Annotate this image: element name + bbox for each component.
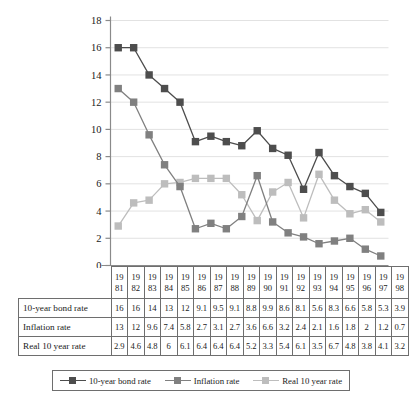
data-point-marker [176, 183, 183, 190]
table-cell: 6.4 [210, 337, 227, 356]
data-point-marker [130, 199, 137, 206]
legend-marker-icon [60, 376, 86, 385]
table-year-header: 1994 [326, 267, 343, 299]
data-point-marker [223, 138, 230, 145]
table-cell: 6.7 [326, 337, 343, 356]
table-row: 10-year bond rate16161413129.19.59.18.89… [19, 299, 409, 318]
year-century: 19 [194, 272, 210, 283]
table-cell: 13 [111, 318, 128, 337]
table-year-header: 1988 [227, 267, 244, 299]
table-cell: 0.7 [392, 318, 409, 337]
year-suffix: 90 [260, 283, 276, 294]
data-point-marker [238, 191, 245, 198]
table-cell: 6 [161, 337, 178, 356]
data-point-marker [377, 218, 384, 225]
table-year-header: 1998 [392, 267, 409, 299]
year-suffix: 98 [392, 283, 408, 294]
year-suffix: 86 [194, 283, 210, 294]
data-point-marker [207, 220, 214, 227]
data-point-marker [315, 171, 322, 178]
year-century: 19 [392, 272, 408, 283]
year-suffix: 82 [128, 283, 144, 294]
data-point-marker [315, 149, 322, 156]
year-suffix: 89 [244, 283, 260, 294]
year-century: 19 [359, 272, 375, 283]
table-cell: 2.7 [227, 318, 244, 337]
y-tick-label-4: 4 [96, 206, 102, 217]
table-cell: 14 [144, 299, 161, 318]
table-cell: 5.3 [375, 299, 392, 318]
data-point-marker [284, 229, 291, 236]
table-cell: 13 [161, 299, 178, 318]
data-point-marker [331, 172, 338, 179]
year-century: 19 [161, 272, 177, 283]
data-point-marker [161, 85, 168, 92]
data-point-marker [346, 183, 353, 190]
series-real-10-year-rate [115, 171, 385, 230]
table-year-header: 1987 [210, 267, 227, 299]
year-suffix: 85 [178, 283, 194, 294]
data-point-marker [346, 235, 353, 242]
series-10-year-bond-rate [115, 44, 385, 216]
year-suffix: 88 [227, 283, 243, 294]
table-year-header: 1989 [243, 267, 260, 299]
table-cell: 1.6 [326, 318, 343, 337]
table-cell: 9.9 [260, 299, 277, 318]
table-cell: 4.8 [342, 337, 359, 356]
legend-item[interactable]: Inflation rate [165, 376, 240, 386]
table-cell: 5.8 [177, 318, 194, 337]
data-point-marker [300, 214, 307, 221]
year-suffix: 83 [145, 283, 161, 294]
table-cell: 5.4 [276, 337, 293, 356]
year-suffix: 97 [376, 283, 392, 294]
chart-plot-area: 181614121086420 [0, 0, 399, 268]
table-cell: 5.6 [309, 299, 326, 318]
data-point-marker [207, 175, 214, 182]
data-point-marker [362, 190, 369, 197]
data-point-marker [346, 210, 353, 217]
table-cell: 3.8 [359, 337, 376, 356]
legend-item[interactable]: 10-year bond rate [60, 376, 151, 386]
data-point-marker [300, 233, 307, 240]
table-row-label: 10-year bond rate [19, 299, 112, 318]
series-line [118, 174, 381, 226]
table-cell: 2 [359, 318, 376, 337]
table-year-header: 1984 [161, 267, 178, 299]
year-century: 19 [277, 272, 293, 283]
data-point-marker [362, 206, 369, 213]
table-cell: 16 [128, 299, 145, 318]
data-point-marker [115, 222, 122, 229]
year-century: 19 [145, 272, 161, 283]
table-cell: 8.6 [276, 299, 293, 318]
year-century: 19 [178, 272, 194, 283]
year-century: 19 [112, 272, 128, 283]
table-cell: 4.6 [128, 337, 145, 356]
data-point-marker [300, 186, 307, 193]
data-point-marker [284, 152, 291, 159]
table-row: Real 10 year rate2.94.64.866.16.46.46.45… [19, 337, 409, 356]
series-line [118, 89, 381, 256]
year-century: 19 [260, 272, 276, 283]
table-cell: 9.1 [227, 299, 244, 318]
table-cell: 3.2 [392, 337, 409, 356]
legend-item[interactable]: Real 10 year rate [253, 376, 342, 386]
table-year-header: 1992 [293, 267, 310, 299]
table-cell: 8.3 [326, 299, 343, 318]
table-cell: 9.6 [144, 318, 161, 337]
y-tick-label-6: 6 [96, 178, 101, 189]
year-suffix: 84 [161, 283, 177, 294]
table-cell: 6.6 [260, 318, 277, 337]
data-point-marker [269, 145, 276, 152]
data-point-marker [254, 127, 261, 134]
table-cell: 4.8 [144, 337, 161, 356]
legend-square-icon [262, 377, 269, 384]
data-point-marker [331, 237, 338, 244]
data-point-marker [269, 218, 276, 225]
data-point-marker [145, 71, 152, 78]
data-point-marker [176, 98, 183, 105]
table-cell: 16 [111, 299, 128, 318]
table-cell: 8.1 [293, 299, 310, 318]
data-point-marker [161, 180, 168, 187]
y-tick-label-8: 8 [96, 151, 101, 162]
y-tick-label-2: 2 [96, 233, 101, 244]
